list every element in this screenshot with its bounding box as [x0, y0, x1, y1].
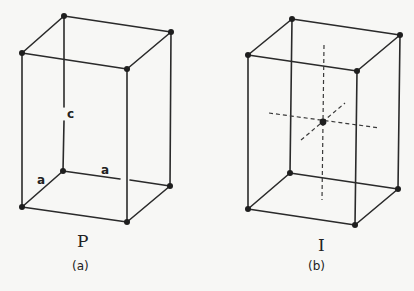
panel-caption-b: (b) — [308, 259, 325, 273]
edge-label-a-back: a — [101, 163, 109, 177]
unit-cell-figure: c a a P (a) — [0, 0, 414, 291]
panel-a-primitive-cell: c a a P (a) — [19, 13, 174, 273]
panel-b-body-centered-cell: I (b) — [245, 16, 403, 273]
panel-caption-a: (a) — [72, 259, 89, 273]
body-center-atom — [320, 119, 327, 126]
panel-a-edges — [22, 16, 171, 222]
panel-a-lattice-points — [19, 13, 174, 225]
lattice-type-label-a: P — [77, 231, 88, 251]
lattice-type-label-b: I — [318, 235, 325, 255]
edge-label-a-left: a — [37, 173, 45, 187]
edge-label-c: c — [67, 107, 74, 121]
